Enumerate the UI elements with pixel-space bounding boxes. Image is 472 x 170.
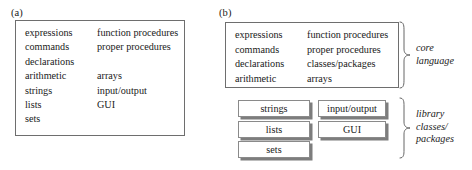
annotation-line: language — [416, 55, 454, 68]
library-box-label: input/output — [327, 103, 377, 115]
library-box-sets: sets — [238, 141, 310, 158]
term-right: input/output — [97, 84, 147, 98]
term-right: proper procedures — [307, 43, 381, 57]
term-right: GUI — [97, 98, 115, 112]
term-right: function procedures — [307, 28, 388, 42]
term-right: arrays — [307, 72, 332, 86]
core-language-annotation: core language — [416, 42, 454, 67]
term-left: expressions — [235, 28, 307, 42]
library-box-label: strings — [260, 103, 287, 115]
panel-a-label: (a) — [11, 7, 23, 19]
panel-a-box: expressions function procedures commands… — [15, 20, 185, 136]
term-right: function procedures — [97, 26, 178, 40]
term-left: commands — [235, 43, 307, 57]
table-row: lists GUI — [25, 98, 184, 112]
annotation-line: core — [416, 42, 454, 55]
term-left: arithmetic — [25, 69, 97, 83]
term-right: arrays — [97, 69, 122, 83]
term-left: expressions — [25, 26, 97, 40]
library-box-label: GUI — [343, 124, 361, 136]
annotation-line: library — [416, 108, 454, 121]
table-row: commands proper procedures — [25, 40, 184, 54]
table-row: strings input/output — [25, 84, 184, 98]
panel-b-label: (b) — [219, 7, 232, 19]
panel-b-core-language-box: expressions function procedures commands… — [225, 22, 399, 88]
table-row: arithmetic arrays — [235, 72, 398, 87]
term-left: declarations — [25, 55, 97, 69]
panel-a-term-grid: expressions function procedures commands… — [16, 21, 184, 135]
library-classes-packages-annotation: library classes/ packages — [416, 108, 454, 146]
table-row: declarations classes/packages — [235, 57, 398, 72]
library-box-strings: strings — [238, 100, 310, 117]
term-left: declarations — [235, 57, 307, 71]
figure-container: (a) expressions function procedures comm… — [0, 0, 472, 170]
library-box-lists: lists — [238, 121, 310, 138]
term-left: commands — [25, 40, 97, 54]
library-box-label: sets — [266, 144, 281, 156]
curly-brace-icon — [399, 97, 411, 159]
term-left: arithmetic — [235, 72, 307, 86]
term-left: sets — [25, 112, 97, 126]
library-box-label: lists — [266, 124, 282, 136]
annotation-line: packages — [416, 133, 454, 146]
table-row: commands proper procedures — [235, 43, 398, 58]
library-box-input-output: input/output — [318, 100, 386, 117]
library-box-gui: GUI — [318, 121, 386, 138]
annotation-line: classes/ — [416, 121, 454, 134]
table-row: declarations — [25, 55, 184, 69]
term-left: lists — [25, 98, 97, 112]
table-row: expressions function procedures — [25, 26, 184, 40]
table-row: sets — [25, 112, 184, 126]
table-row: arithmetic arrays — [25, 69, 184, 83]
table-row: expressions function procedures — [235, 28, 398, 43]
term-right: proper procedures — [97, 40, 171, 54]
term-left: strings — [25, 84, 97, 98]
term-right: classes/packages — [307, 57, 375, 71]
curly-brace-icon — [399, 21, 411, 89]
panel-b-core-term-grid: expressions function procedures commands… — [226, 23, 398, 87]
